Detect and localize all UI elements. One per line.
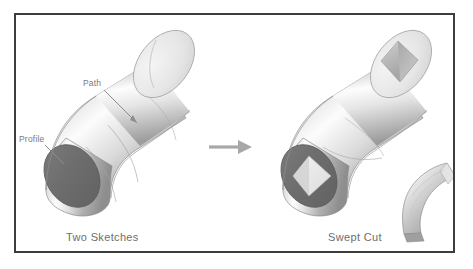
caption-two-sketches: Two Sketches: [66, 231, 139, 243]
annotation-path-label: Path: [83, 78, 101, 88]
caption-swept-cut: Swept Cut: [328, 231, 382, 243]
figure-border: [14, 13, 455, 253]
figure-canvas: Path Profile Two Sketches Swept Cut: [0, 0, 473, 269]
annotation-profile-label: Profile: [19, 134, 45, 144]
